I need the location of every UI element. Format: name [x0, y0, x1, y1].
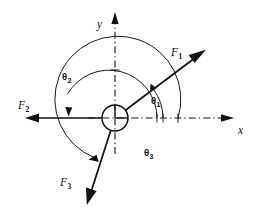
force-1-subscript: 1 — [178, 52, 182, 61]
angle-theta-3-label: θ3 — [144, 148, 153, 158]
force-2-arrowhead — [25, 114, 39, 123]
angle-theta-2-subscript: 2 — [67, 77, 71, 84]
angle-theta-3-subscript: 3 — [149, 153, 153, 160]
force-1-label: F1 — [171, 47, 182, 59]
force-1-symbol: F — [171, 46, 178, 58]
angle-theta-1-arrowhead — [150, 84, 157, 93]
force-vectors-group — [25, 50, 206, 205]
angle-theta-1-label: θ1 — [151, 96, 160, 106]
x-axis-label: x — [238, 125, 243, 137]
force-3-subscript: 3 — [67, 182, 71, 191]
force-2-symbol: F — [18, 99, 25, 111]
force-3-symbol: F — [60, 176, 67, 188]
y-axis-label: y — [97, 19, 102, 31]
y-axis-arrowhead — [111, 12, 118, 24]
diagram-canvas — [0, 0, 257, 223]
force-3-label: F3 — [60, 177, 71, 189]
angle-theta-2-label: θ2 — [62, 72, 71, 82]
angle-arcs-group — [55, 36, 181, 162]
angle-theta-2-arc — [67, 70, 157, 118]
angle-theta-2-arrowhead — [65, 107, 72, 117]
force-2-label: F2 — [18, 100, 29, 112]
force-vector-diagram: y x F1 F2 F3 θ1 θ2 θ3 — [0, 0, 257, 223]
force-2-subscript: 2 — [25, 105, 29, 114]
force-3-line — [91, 130, 111, 192]
angle-theta-3-arc — [55, 36, 181, 158]
force-3-arrowhead — [86, 188, 97, 205]
x-axis-arrowhead — [221, 114, 234, 122]
angle-theta-1-subscript: 1 — [156, 101, 160, 108]
